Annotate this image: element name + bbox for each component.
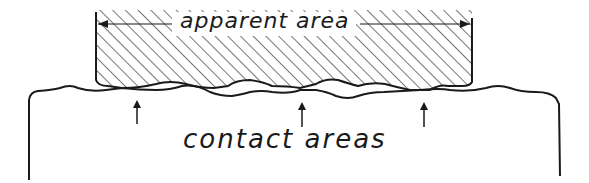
arrow-up-icon (420, 102, 428, 127)
arrow-up-icon (133, 100, 141, 124)
contact-areas-label: contact areas (183, 124, 387, 154)
contact-arrows (133, 100, 428, 127)
apparent-area-label: apparent area (180, 8, 350, 33)
